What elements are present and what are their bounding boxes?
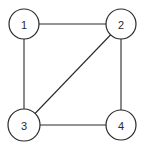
edges-group [24, 24, 121, 125]
graph-diagram: 1234 [0, 0, 146, 149]
node-2: 2 [106, 9, 136, 39]
node-label: 4 [118, 120, 124, 132]
node-label: 3 [21, 120, 27, 132]
node-label: 1 [21, 19, 27, 31]
node-3: 3 [8, 109, 40, 141]
node-label: 2 [118, 19, 124, 31]
node-4: 4 [106, 110, 136, 140]
node-1: 1 [9, 9, 39, 39]
edge-2-3 [24, 24, 121, 125]
